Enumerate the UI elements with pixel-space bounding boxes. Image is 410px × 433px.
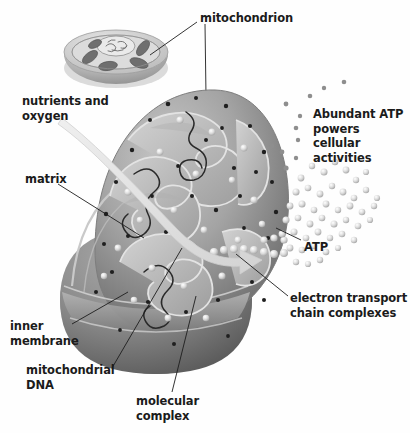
label-inner-membrane: inner membrane: [10, 319, 80, 348]
figure-mitochondrion: mitochondrion nutrients and oxygen matri…: [0, 0, 410, 433]
label-mitochondrial-dna: mitochondrial DNA: [26, 363, 116, 392]
cell-cutaway-inset: [64, 30, 168, 88]
label-matrix: matrix: [25, 172, 67, 187]
mitochondrion-cutaway: [58, 90, 288, 374]
label-electron-transport-chain: electron transport chain complexes: [290, 291, 408, 320]
label-molecular-complex: molecular complex: [136, 394, 216, 423]
label-atp: ATP: [304, 240, 328, 255]
label-abundant-atp: Abundant ATP powers cellular activities: [313, 107, 408, 165]
label-mitochondrion: mitochondrion: [200, 11, 293, 26]
label-nutrients-and-oxygen: nutrients and oxygen: [22, 94, 127, 123]
